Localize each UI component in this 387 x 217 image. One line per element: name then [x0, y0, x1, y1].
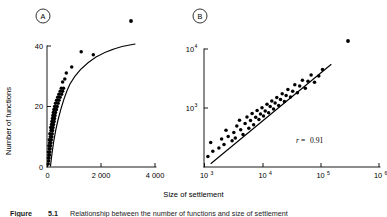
- data-point: [304, 86, 308, 90]
- figure-caption-text: Relationship between the number of funct…: [70, 209, 288, 217]
- data-point: [55, 105, 59, 109]
- data-point: [284, 94, 288, 98]
- outlier-data-point: [346, 39, 350, 43]
- panel-a-x-ticks: 0 2 000 4 000: [45, 163, 164, 180]
- panel-b-outlier-points: [346, 39, 350, 43]
- data-point: [79, 50, 83, 54]
- data-point: [209, 141, 213, 145]
- data-point: [47, 156, 51, 160]
- panel-b-label-text: B: [198, 12, 203, 21]
- correlation-equals: =: [301, 136, 305, 145]
- data-point: [63, 77, 67, 81]
- panel-a-fit-curve: [51, 44, 136, 166]
- figure-svg: A Number of functions 40 20 0 0: [0, 0, 387, 217]
- data-point: [54, 111, 58, 115]
- panel-b-x-tick-exponent-5: 5: [327, 170, 330, 176]
- panel-b-scatter-points: [206, 68, 324, 159]
- data-point: [239, 128, 243, 132]
- data-point: [232, 131, 236, 135]
- data-point: [279, 98, 283, 102]
- panel-a-x-tick-label-4000: 4 000: [146, 171, 165, 180]
- panel-b-x-tick-label-1e3: 10: [200, 171, 208, 180]
- panel-b-x-tick-exponent-4: 4: [269, 170, 272, 176]
- panel-a-y-axis-title: Number of functions: [4, 87, 13, 155]
- panel-b: B 10 4 10 3 10 3: [186, 9, 387, 180]
- data-point: [291, 89, 295, 93]
- data-point: [234, 136, 238, 140]
- data-point: [268, 105, 272, 109]
- data-point: [267, 111, 271, 115]
- data-point: [226, 135, 230, 139]
- panel-a-label: A: [36, 9, 50, 23]
- data-point: [222, 143, 226, 147]
- data-point: [48, 153, 52, 157]
- data-point: [50, 138, 54, 142]
- data-point: [62, 86, 66, 90]
- data-point: [224, 129, 228, 133]
- data-point: [249, 119, 253, 123]
- data-point: [280, 92, 284, 96]
- data-point: [306, 79, 310, 83]
- figure-container: A Number of functions 40 20 0 0: [0, 0, 387, 217]
- data-point: [250, 112, 254, 116]
- correlation-symbol: r: [296, 136, 299, 145]
- data-point: [265, 102, 269, 106]
- panel-b-fit-line: [211, 65, 331, 164]
- data-point: [257, 118, 261, 122]
- data-point: [55, 108, 59, 112]
- panel-b-correlation-annotation: r = 0.91: [296, 136, 323, 145]
- data-point: [49, 141, 53, 145]
- panel-b-x-tick-label-1e6: 10: [374, 171, 382, 180]
- panel-a-outlier-points: [129, 19, 133, 23]
- figure-caption: Figure 5.1 Relationship between the numb…: [10, 209, 288, 217]
- panel-a-y-tick-label-0: 0: [39, 163, 43, 172]
- panel-a-x-tick-label-0: 0: [45, 171, 49, 180]
- data-point: [60, 92, 64, 96]
- data-point: [275, 96, 279, 100]
- data-point: [313, 81, 317, 85]
- panel-b-x-tick-label-1e4: 10: [259, 171, 267, 180]
- data-point: [61, 89, 65, 93]
- data-point: [206, 155, 210, 159]
- data-point: [247, 126, 251, 130]
- data-point: [309, 73, 313, 77]
- data-point: [241, 133, 245, 137]
- data-point: [65, 71, 69, 75]
- panel-b-x-tick-exponent-3: 3: [211, 170, 214, 176]
- panel-a-y-tick-label-40: 40: [35, 42, 43, 51]
- data-point: [245, 115, 249, 119]
- data-point: [277, 104, 281, 108]
- data-point: [48, 150, 52, 154]
- data-point: [301, 79, 305, 83]
- data-point: [211, 149, 215, 153]
- data-point: [58, 96, 62, 100]
- panel-b-y-tick-exponent-3: 3: [195, 102, 198, 108]
- data-point: [47, 159, 51, 163]
- data-point: [260, 106, 264, 110]
- data-point: [293, 83, 297, 87]
- data-point: [50, 135, 54, 139]
- data-point: [259, 112, 263, 116]
- data-point: [220, 137, 224, 141]
- data-point: [57, 99, 61, 103]
- data-point: [272, 107, 276, 111]
- panel-b-label: B: [193, 9, 207, 23]
- data-point: [317, 74, 321, 78]
- shared-x-axis-label: Size of settlement: [163, 190, 224, 199]
- data-point: [296, 91, 300, 95]
- panel-b-y-tick-label-1000: 10: [186, 104, 194, 113]
- data-point: [46, 162, 50, 166]
- data-point: [49, 144, 53, 148]
- data-point: [61, 80, 65, 84]
- panel-b-y-tick-exponent-4: 4: [195, 43, 198, 49]
- panel-b-x-ticks: 10 3 10 4 10 5 10 6: [200, 163, 387, 180]
- data-point: [70, 65, 74, 69]
- data-point: [321, 68, 325, 72]
- data-point: [52, 123, 56, 127]
- data-point: [235, 124, 239, 128]
- correlation-value: 0.91: [310, 136, 323, 145]
- data-point: [51, 129, 55, 133]
- data-point: [263, 109, 267, 113]
- figure-caption-number: 5.1: [48, 209, 58, 217]
- panel-b-x-tick-label-1e5: 10: [317, 171, 325, 180]
